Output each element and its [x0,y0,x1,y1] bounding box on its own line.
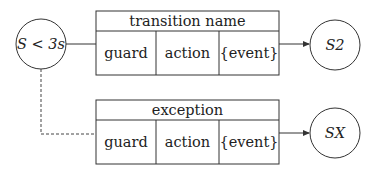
transition-box: transition name guard action {event} [96,11,279,75]
transition-event: {event} [220,45,279,61]
transition-title: transition name [129,13,245,29]
exception-title: exception [152,102,223,118]
exception-connector [41,69,96,134]
state-sx: SX [310,108,360,158]
state-diagram: S < 3s transition name guard action {eve… [0,0,379,173]
transition-action: action [165,45,210,61]
state-sx-label: SX [325,125,346,141]
transition-guard: guard [104,45,147,61]
exception-box: exception guard action {event} [96,100,279,164]
state-s2: S2 [310,20,360,70]
state-source: S < 3s [16,19,66,69]
exception-action: action [165,134,210,150]
exception-guard: guard [104,134,147,150]
exception-event: {event} [220,134,279,150]
state-source-label: S < 3s [17,36,65,52]
state-s2-label: S2 [325,37,344,53]
